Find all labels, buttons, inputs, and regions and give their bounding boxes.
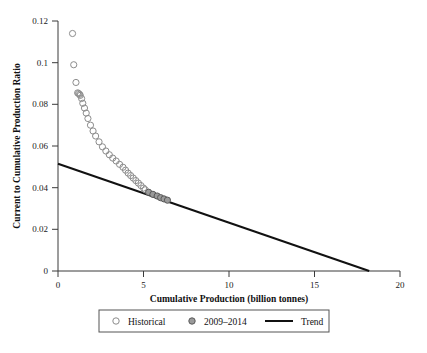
y-tick-label: 0 bbox=[44, 266, 49, 276]
data-point-historical bbox=[69, 30, 75, 36]
legend: Historical 2009–2014 Trend bbox=[99, 310, 329, 332]
x-tick-label: 0 bbox=[56, 280, 61, 290]
legend-trend-label: Trend bbox=[301, 317, 324, 327]
data-point-historical bbox=[85, 115, 91, 121]
y-tick-label: 0.12 bbox=[32, 16, 48, 26]
data-point-historical bbox=[73, 79, 79, 85]
legend-recent-label: 2009–2014 bbox=[204, 317, 247, 327]
data-point-recent bbox=[164, 197, 170, 203]
x-tick-label: 10 bbox=[225, 280, 235, 290]
x-tick-label: 15 bbox=[310, 280, 320, 290]
y-tick-label: 0.06 bbox=[32, 141, 48, 151]
trend-line bbox=[58, 164, 369, 271]
data-point-historical bbox=[99, 144, 105, 150]
x-ticks: 0 5 10 15 20 bbox=[56, 271, 405, 290]
data-point-historical bbox=[93, 133, 99, 139]
legend-recent-marker-icon bbox=[189, 318, 195, 324]
data-point-historical bbox=[103, 148, 109, 154]
figure-container: 0 0.02 0.04 0.06 0.08 0.1 0.12 0 5 10 15… bbox=[0, 0, 427, 353]
y-ticks: 0 0.02 0.04 0.06 0.08 0.1 0.12 bbox=[32, 16, 58, 276]
y-tick-label: 0.08 bbox=[32, 99, 48, 109]
data-point-historical bbox=[71, 62, 77, 68]
x-tick-label: 5 bbox=[141, 280, 146, 290]
trend-line-series bbox=[58, 164, 369, 271]
y-tick-label: 0.04 bbox=[32, 183, 48, 193]
y-tick-label: 0.1 bbox=[37, 58, 48, 68]
y-axis-title: Current to Cumulative Production Ratio bbox=[12, 63, 22, 229]
x-tick-label: 20 bbox=[396, 280, 406, 290]
y-tick-label: 0.02 bbox=[32, 224, 48, 234]
axis-group bbox=[58, 21, 400, 271]
historical-series bbox=[69, 30, 148, 192]
scatter-chart: 0 0.02 0.04 0.06 0.08 0.1 0.12 0 5 10 15… bbox=[0, 0, 427, 353]
x-axis-title: Cumulative Production (billion tonnes) bbox=[150, 294, 308, 305]
legend-historical-label: Historical bbox=[128, 317, 166, 327]
data-point-historical bbox=[87, 122, 93, 128]
